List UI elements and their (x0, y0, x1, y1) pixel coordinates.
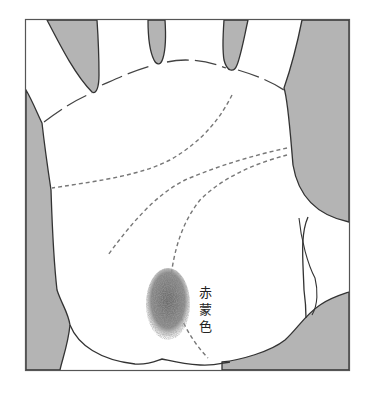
annotation-char-3: 色 (197, 318, 213, 335)
annotation-label: 赤 蒙 色 (197, 284, 213, 335)
palm-diagram (0, 0, 376, 406)
annotation-char-2: 蒙 (197, 301, 213, 318)
birthmark-mark (146, 268, 190, 340)
annotation-char-1: 赤 (197, 284, 213, 301)
